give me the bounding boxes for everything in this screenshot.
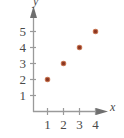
x-tick-label: 4 [90, 118, 102, 131]
y-tick-label: 5 [12, 25, 26, 38]
x-axis-arrow-icon [96, 108, 108, 115]
y-tick-label: 3 [12, 57, 26, 70]
x-axis-label: x [110, 101, 115, 113]
y-axis-label: y [33, 0, 38, 7]
y-tick-label: 4 [12, 41, 26, 54]
data-point [45, 77, 49, 81]
data-point [93, 29, 97, 33]
x-tick-label: 1 [42, 118, 54, 131]
y-tick-label: 2 [12, 73, 26, 86]
scatter-plot-figure: 5 4 3 2 1 1 2 3 4 y x [0, 0, 124, 138]
x-tick-label: 3 [74, 118, 86, 131]
data-point [77, 45, 81, 49]
x-tick-label: 2 [58, 118, 70, 131]
data-point [61, 61, 65, 65]
y-tick-label: 1 [12, 89, 26, 102]
